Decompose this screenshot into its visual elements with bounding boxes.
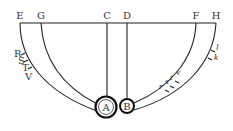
circle-a: A: [96, 97, 117, 118]
label-e: E: [16, 10, 23, 21]
mark-s-small: s: [165, 76, 169, 86]
label-h: H: [212, 10, 221, 21]
circle-b: B: [120, 99, 134, 113]
mark-v-small: v: [176, 67, 180, 77]
label-d: D: [123, 10, 131, 21]
mark-k: k: [214, 52, 219, 62]
mark-r-small: r: [159, 81, 163, 91]
label-c: C: [103, 10, 111, 21]
label-a: A: [101, 102, 110, 113]
arc-f: [134, 23, 196, 103]
label-b: B: [123, 101, 130, 112]
label-f: F: [193, 10, 200, 21]
mark-l: l: [216, 42, 219, 52]
arc-g: [41, 23, 97, 104]
label-g: G: [37, 10, 45, 21]
diagram-canvas: A B E G C D F H R S T V r s t v l k: [0, 0, 233, 131]
mark-v: V: [24, 71, 33, 82]
